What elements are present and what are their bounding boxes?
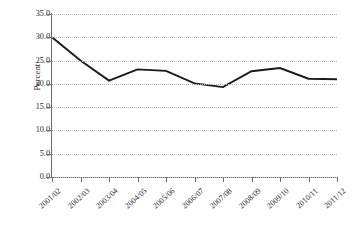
x-axis-tick-mark: [81, 177, 82, 182]
x-axis-tick-mark: [337, 177, 338, 182]
y-axis-tick-mark: [46, 154, 52, 155]
x-axis-tick-mark: [138, 177, 139, 182]
x-axis-tick-mark: [223, 177, 224, 182]
x-axis-tick-mark: [252, 177, 253, 182]
y-axis-tick-mark: [46, 14, 52, 15]
x-axis-tick-mark: [52, 177, 53, 182]
y-axis-tick-mark: [46, 107, 52, 108]
x-axis-tick-mark: [109, 177, 110, 182]
x-axis-tick-mark: [280, 177, 281, 182]
x-axis-tick-mark: [309, 177, 310, 182]
line-chart: Percent 0.05.010.015.020.025.030.035.0 2…: [0, 0, 354, 230]
y-axis-tick-mark: [46, 130, 52, 131]
x-axis-tick-labels: 2001/022002/032003/042004/052005/062006/…: [0, 0, 354, 230]
y-axis-tick-mark: [46, 61, 52, 62]
y-axis-tick-mark: [46, 37, 52, 38]
x-axis-tick-mark: [195, 177, 196, 182]
y-axis-tick-mark: [46, 84, 52, 85]
x-axis-tick-mark: [166, 177, 167, 182]
